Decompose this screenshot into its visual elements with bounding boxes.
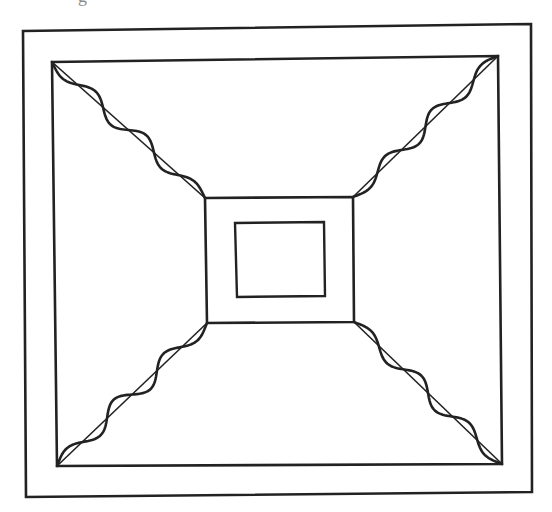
perspective-square-diagram: [0, 0, 552, 512]
central-square: [205, 197, 354, 323]
innermost-square: [235, 222, 325, 297]
